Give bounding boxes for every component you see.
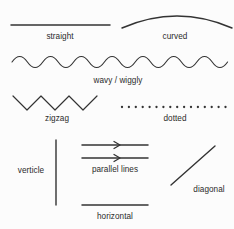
label-curved: curved [163,32,188,42]
label-wavy: wavy / wiggly [94,76,143,86]
label-zigzag: zigzag [45,114,69,124]
label-parallel-lines: parallel lines [92,165,138,175]
dotted-line-icon [121,106,227,108]
curved-arc-icon [122,16,232,28]
label-horizontal: horizontal [97,212,133,222]
line-types-diagram: straight curved wavy / wiggly zigzag dot… [0,0,234,229]
label-verticle: verticle [18,166,44,176]
parallel-arrows-icon [82,142,148,162]
label-straight: straight [46,32,73,42]
wavy-line-icon [12,57,228,68]
label-dotted: dotted [163,114,186,124]
zigzag-line-icon [13,96,97,110]
label-diagonal: diagonal [193,185,224,195]
diagonal-line-icon [171,146,215,185]
